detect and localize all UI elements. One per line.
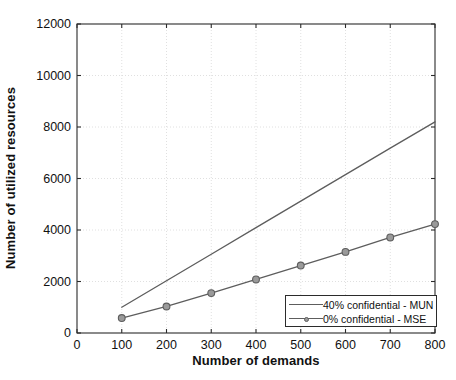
chart-legend: 40% confidential - MUN 0% confidential -…	[285, 295, 437, 327]
data-point-marker	[163, 303, 170, 310]
legend-entry-mun: 40% confidential - MUN	[286, 298, 436, 312]
data-point-marker	[208, 290, 215, 297]
plot-background	[77, 24, 435, 333]
data-point-marker	[297, 262, 304, 269]
legend-label-mun: 40% confidential - MUN	[323, 299, 433, 311]
data-point-marker	[387, 234, 394, 241]
data-point-marker	[342, 248, 349, 255]
legend-line-sample-mun	[289, 299, 323, 311]
data-point-marker	[432, 221, 439, 228]
legend-entry-mse: 0% confidential - MSE	[286, 312, 436, 326]
data-point-marker	[118, 315, 125, 322]
legend-line-sample-mse	[289, 313, 323, 325]
legend-circle-marker-icon	[304, 317, 309, 322]
legend-line-icon	[289, 304, 323, 305]
data-point-marker	[253, 276, 260, 283]
chart-figure: Number of utilized resources Number of d…	[0, 0, 456, 380]
legend-label-mse: 0% confidential - MSE	[323, 313, 426, 325]
